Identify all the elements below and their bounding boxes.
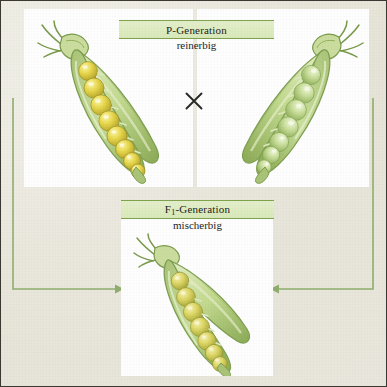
p-generation-label-band: P-Generation [119, 20, 274, 39]
mendel-inheritance-figure: P-Generation reinerbig F1-Generation [0, 0, 387, 387]
f1-generation-sublabel: mischerbig [121, 219, 274, 231]
f1-label-suffix: -Generation [175, 203, 230, 215]
pea-pod-f1-illustration [129, 229, 271, 376]
p-generation-sublabel: reinerbig [119, 39, 274, 51]
f1-specimen-panel [121, 219, 273, 376]
cross-symbol [183, 90, 205, 112]
f1-generation-label: F1-Generation [165, 203, 230, 217]
f1-generation-label-band: F1-Generation [121, 200, 274, 219]
p-generation-label: P-Generation [166, 24, 227, 36]
